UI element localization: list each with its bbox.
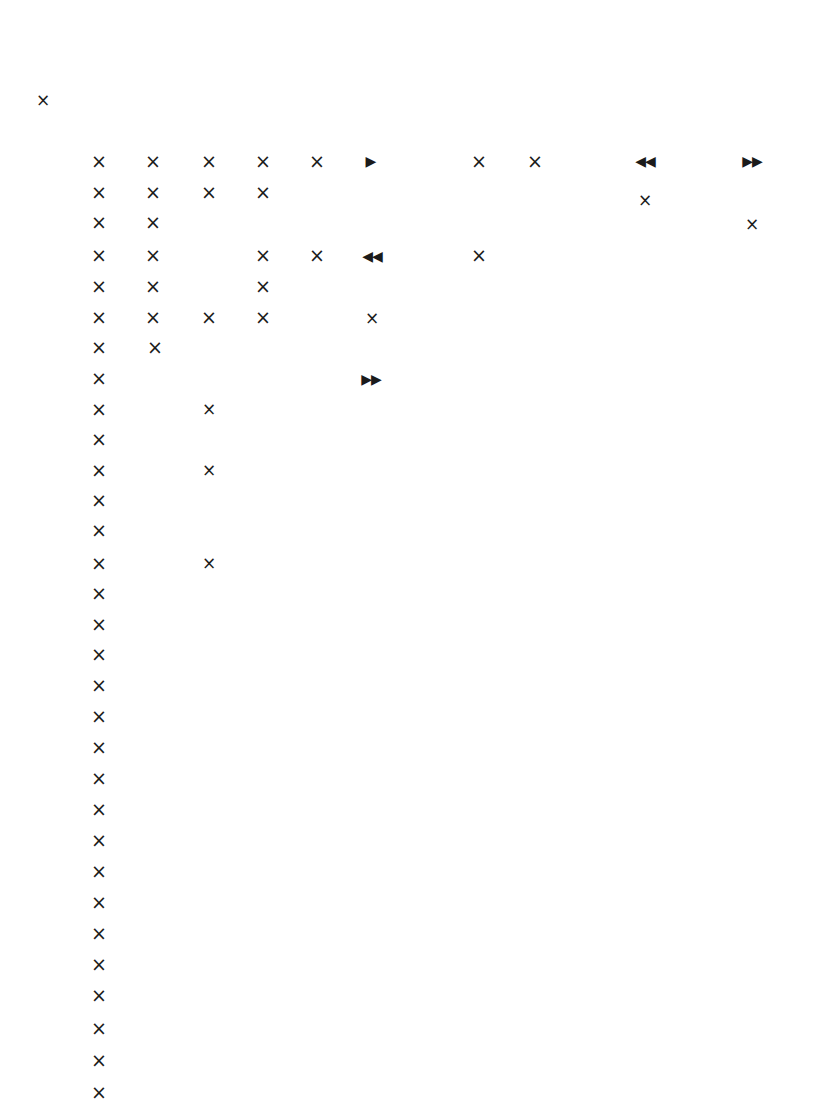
glyph-r26-c1: × xyxy=(91,924,107,943)
glyph-r1-c4: × xyxy=(255,152,271,171)
glyph-r17-c1: × xyxy=(91,645,107,664)
glyph-r6-c4: × xyxy=(255,308,271,327)
glyph-r2-c2: × xyxy=(145,183,161,202)
glyph-r1-c2: × xyxy=(145,152,161,171)
glyph-r9-c1: × xyxy=(91,400,107,419)
glyph-r6-c2: × xyxy=(145,308,161,327)
glyph-r1-c3: × xyxy=(201,152,217,171)
glyph-r2-c1: × xyxy=(91,183,107,202)
glyph-r24-c1: × xyxy=(91,862,107,881)
glyph-r4-c5: × xyxy=(309,246,325,265)
glyph-r2-c11: × xyxy=(638,192,652,209)
glyph-r30-c1: × xyxy=(91,1051,107,1070)
glyph-r27-c1: × xyxy=(91,955,107,974)
glyph-r1-c11: ◀◀ xyxy=(635,154,655,168)
glyph-r11-c3: × xyxy=(202,462,216,479)
glyph-r2-c4: × xyxy=(255,183,271,202)
glyph-r18-c1: × xyxy=(91,676,107,695)
glyph-r12-c1: × xyxy=(91,491,107,510)
glyph-r29-c1: × xyxy=(91,1019,107,1038)
glyph-r3-c1: × xyxy=(91,213,107,232)
glyph-r1-c6: ▶ xyxy=(366,154,377,168)
glyph-r13-c1: × xyxy=(91,521,107,540)
glyph-r5-c1: × xyxy=(91,277,107,296)
glyph-r5-c2: × xyxy=(145,277,161,296)
glyph-r6-c3: × xyxy=(201,308,217,327)
glyph-r1-c13: ▶▶ xyxy=(742,154,762,168)
glyph-r3-c13: × xyxy=(745,216,759,233)
page-canvas: ××××××▶××◀◀▶▶××××××××××××◀◀××××××××××××▶… xyxy=(0,0,816,1103)
glyph-r5-c4: × xyxy=(255,277,271,296)
glyph-r21-c1: × xyxy=(91,769,107,788)
glyph-r25-c1: × xyxy=(91,893,107,912)
glyph-r4-c1: × xyxy=(91,246,107,265)
glyph-isolated-cross: × xyxy=(36,92,50,109)
glyph-r4-c4: × xyxy=(255,246,271,265)
glyph-r20-c1: × xyxy=(91,738,107,757)
glyph-r1-c8: × xyxy=(471,152,487,171)
glyph-r1-c9: × xyxy=(527,152,543,171)
glyph-r15-c1: × xyxy=(91,584,107,603)
glyph-r6-c1: × xyxy=(91,308,107,327)
glyph-r8-c1: × xyxy=(91,369,107,388)
glyph-r8-c6: ▶▶ xyxy=(361,372,381,386)
glyph-r7-c1: × xyxy=(91,338,107,357)
glyph-r22-c1: × xyxy=(91,800,107,819)
glyph-r23-c1: × xyxy=(91,831,107,850)
glyph-r4-c8: × xyxy=(471,246,487,265)
glyph-r6-c6: × xyxy=(365,310,379,327)
glyph-r14-c1: × xyxy=(91,554,107,573)
glyph-r31-c1: × xyxy=(91,1083,107,1102)
glyph-r28-c1: × xyxy=(91,986,107,1005)
glyph-r7-c2: × xyxy=(147,338,163,357)
glyph-r1-c5: × xyxy=(309,152,325,171)
glyph-r11-c1: × xyxy=(91,461,107,480)
glyph-r16-c1: × xyxy=(91,615,107,634)
glyph-r19-c1: × xyxy=(91,707,107,726)
glyph-r4-c2: × xyxy=(145,246,161,265)
glyph-r4-c6: ◀◀ xyxy=(362,249,382,263)
glyph-r14-c3: × xyxy=(202,555,216,572)
glyph-r3-c2: × xyxy=(145,213,161,232)
glyph-r1-c1: × xyxy=(91,152,107,171)
glyph-r2-c3: × xyxy=(201,183,217,202)
glyph-r10-c1: × xyxy=(91,430,107,449)
glyph-r9-c3: × xyxy=(202,401,216,418)
